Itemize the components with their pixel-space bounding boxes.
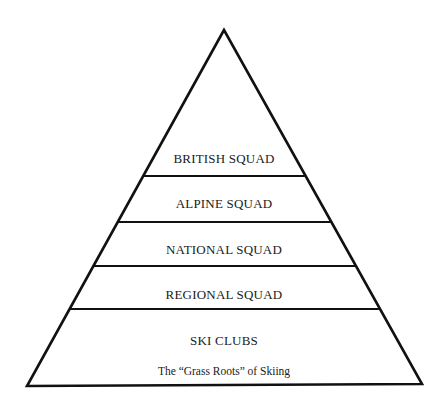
tier-sublabel: The “Grass Roots” of Skiing [158, 365, 290, 378]
tier-label: ALPINE SQUAD [176, 196, 273, 211]
tier-national-squad: NATIONAL SQUAD [166, 242, 282, 257]
tier-label: REGIONAL SQUAD [166, 287, 283, 302]
tier-label: BRITISH SQUAD [173, 151, 274, 166]
tier-label: SKI CLUBS [190, 333, 258, 348]
tier-regional-squad: REGIONAL SQUAD [166, 287, 283, 302]
tier-label: NATIONAL SQUAD [166, 242, 282, 257]
tier-british-squad: BRITISH SQUAD [173, 151, 274, 166]
pyramid-diagram: BRITISH SQUAD ALPINE SQUAD NATIONAL SQUA… [0, 0, 445, 420]
tier-alpine-squad: ALPINE SQUAD [176, 196, 273, 211]
